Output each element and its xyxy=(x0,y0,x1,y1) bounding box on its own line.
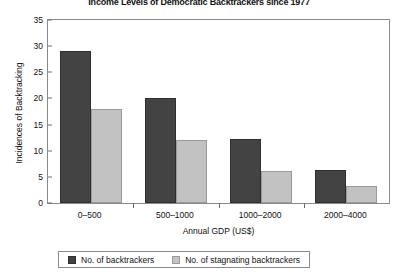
y-tick-mark xyxy=(48,150,52,151)
y-tick-label: 30 xyxy=(34,41,43,51)
y-tick-mark xyxy=(48,46,52,47)
legend-swatch-icon xyxy=(68,256,76,264)
x-tick-mark xyxy=(219,203,220,208)
legend-swatch-icon xyxy=(172,256,180,264)
y-tick-label: 15 xyxy=(34,120,43,130)
x-category-label: 2000–4000 xyxy=(324,210,367,220)
legend-entry: No. of backtrackers xyxy=(68,255,154,265)
y-tick-label: 0 xyxy=(38,198,43,208)
x-category-label: 0–500 xyxy=(78,210,102,220)
y-axis-title: Incidences of Backtracking xyxy=(14,38,24,188)
legend-entry: No. of stagnating backtrackers xyxy=(172,255,300,265)
x-tick-mark xyxy=(304,203,305,208)
y-tick-mark xyxy=(48,176,52,177)
y-tick-mark xyxy=(48,124,52,125)
chart-title: Income Levels of Democratic Backtrackers… xyxy=(0,0,398,7)
x-tick-mark xyxy=(133,203,134,208)
legend-label: No. of stagnating backtrackers xyxy=(185,255,300,265)
bar xyxy=(145,98,176,203)
chart-legend: No. of backtrackersNo. of stagnating bac… xyxy=(58,251,310,268)
bar xyxy=(60,51,91,203)
x-category-label: 1000–2000 xyxy=(239,210,282,220)
y-tick-label: 5 xyxy=(38,172,43,182)
legend-label: No. of backtrackers xyxy=(81,255,154,265)
bar xyxy=(91,109,122,203)
y-tick-mark xyxy=(48,20,52,21)
y-tick-mark xyxy=(48,98,52,99)
bar xyxy=(230,139,261,203)
bar xyxy=(176,140,207,203)
y-tick-label: 35 xyxy=(34,15,43,25)
y-tick-label: 10 xyxy=(34,146,43,156)
x-axis-title: Annual GDP (US$) xyxy=(47,226,390,236)
y-tick-mark xyxy=(48,72,52,73)
plot-area: 05101520253035 xyxy=(47,19,390,204)
y-tick-label: 20 xyxy=(34,93,43,103)
bar-chart-figure: Income Levels of Democratic Backtrackers… xyxy=(0,0,398,272)
x-category-label: 500–1000 xyxy=(156,210,194,220)
bar xyxy=(346,186,377,203)
y-tick-mark xyxy=(48,203,52,204)
bar xyxy=(315,170,346,203)
bar xyxy=(261,171,292,203)
y-tick-label: 25 xyxy=(34,67,43,77)
